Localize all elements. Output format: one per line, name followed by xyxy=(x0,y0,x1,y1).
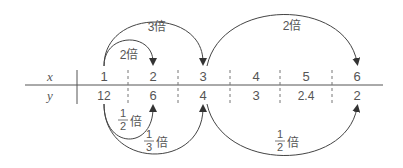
svg-text:倍: 倍 xyxy=(287,135,299,150)
svg-text:3: 3 xyxy=(146,141,152,153)
bottom-arrows xyxy=(104,104,357,156)
label-3x: 3倍 xyxy=(148,19,167,34)
row-label-x: x xyxy=(46,69,53,84)
row-label-y: y xyxy=(45,88,53,103)
svg-text:12: 12 xyxy=(97,89,111,103)
svg-text:倍: 倍 xyxy=(130,114,142,129)
svg-text:倍: 倍 xyxy=(156,135,168,150)
fraction-label-half-1: 1 2 倍 xyxy=(118,107,142,132)
label-2x-small: 2倍 xyxy=(120,47,139,62)
svg-text:2: 2 xyxy=(120,120,126,132)
arrow-12-to-4 xyxy=(104,104,203,154)
svg-text:3: 3 xyxy=(199,69,206,84)
svg-text:3: 3 xyxy=(252,88,259,103)
proportion-diagram: x y 1 2 3 4 5 6 12 6 4 3 2.4 2 2倍 3倍 2倍 … xyxy=(0,0,403,168)
svg-text:1: 1 xyxy=(100,69,107,84)
top-arrows xyxy=(104,14,357,66)
svg-text:4: 4 xyxy=(252,69,259,84)
svg-text:6: 6 xyxy=(149,88,156,103)
svg-text:2: 2 xyxy=(353,88,360,103)
svg-text:2: 2 xyxy=(277,141,283,153)
label-2x-large: 2倍 xyxy=(283,18,302,33)
y-values: 12 6 4 3 2.4 2 xyxy=(97,88,360,103)
svg-text:5: 5 xyxy=(302,69,309,84)
svg-text:1: 1 xyxy=(146,128,152,140)
svg-text:1: 1 xyxy=(120,107,126,119)
fraction-label-half-2: 1 2 倍 xyxy=(275,128,299,153)
svg-text:2.4: 2.4 xyxy=(298,89,315,103)
svg-text:4: 4 xyxy=(199,88,206,103)
svg-text:2: 2 xyxy=(149,69,156,84)
fraction-label-third: 1 3 倍 xyxy=(144,128,168,153)
svg-text:6: 6 xyxy=(353,69,360,84)
svg-text:1: 1 xyxy=(277,128,283,140)
